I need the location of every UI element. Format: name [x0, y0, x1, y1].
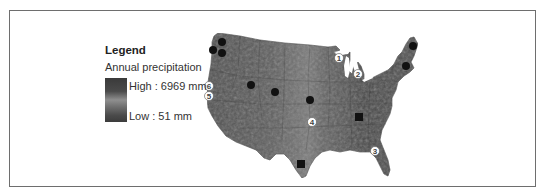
numbered-marker-2: 2 [354, 70, 363, 79]
svg-text:2: 2 [356, 70, 361, 79]
site-circle-marker [218, 49, 226, 57]
svg-text:4: 4 [310, 118, 315, 127]
site-circle-marker [306, 96, 314, 104]
site-circle-marker [247, 81, 255, 89]
svg-text:1: 1 [337, 54, 342, 63]
precipitation-gradient-swatch [105, 78, 127, 122]
site-circle-marker [271, 88, 279, 96]
site-circle-marker [218, 38, 226, 46]
svg-text:3: 3 [373, 147, 378, 156]
us-precipitation-map: 1 2 3 4 5 6 [0, 0, 545, 196]
site-circle-marker [209, 46, 217, 54]
svg-text:6: 6 [207, 82, 212, 91]
legend-low-label: Low : 51 mm [129, 110, 192, 122]
legend-title: Legend [105, 44, 146, 56]
site-square-marker [355, 113, 363, 121]
site-circle-marker [409, 42, 417, 50]
legend-high-label: High : 6969 mm [129, 80, 207, 92]
site-circle-marker [402, 62, 410, 70]
legend-subtitle: Annual precipitation [105, 61, 202, 73]
numbered-marker-3: 3 [371, 147, 380, 156]
numbered-marker-4: 4 [308, 118, 317, 127]
numbered-marker-1: 1 [335, 54, 344, 63]
us-landmass [207, 33, 418, 178]
site-square-marker [297, 160, 305, 168]
numbered-marker-5: 5 [205, 92, 214, 101]
svg-text:5: 5 [207, 92, 212, 101]
